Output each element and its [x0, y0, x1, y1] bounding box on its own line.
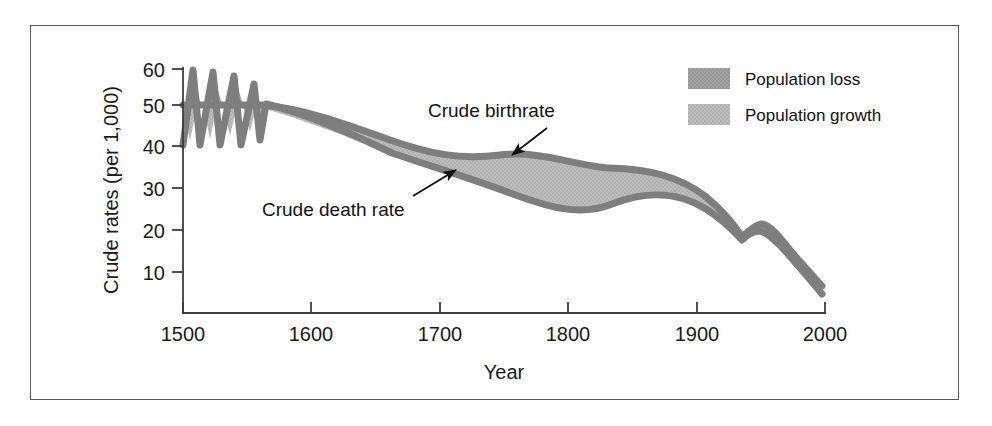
- x-tick-label-1900: 1900: [675, 323, 720, 345]
- crude-birthrate-curve: [183, 105, 822, 286]
- annotation-birthrate-arrow: [512, 128, 547, 155]
- x-tick-label-1500: 1500: [161, 323, 206, 345]
- y-tick-label-50: 50: [143, 95, 165, 117]
- x-tick-label-1600: 1600: [289, 323, 334, 345]
- annotation-crude-birthrate: Crude birthrate: [428, 100, 555, 121]
- y-tick-label-60: 60: [143, 59, 165, 81]
- legend-label-population-growth: Population growth: [745, 106, 881, 125]
- y-tick-label-10: 10: [143, 262, 165, 284]
- y-tick-label-30: 30: [143, 178, 165, 200]
- legend: Population loss Population growth: [688, 68, 881, 125]
- annotation-deathrate-arrow: [413, 170, 456, 196]
- legend-label-population-loss: Population loss: [745, 70, 860, 89]
- figure-container: 60 50 40 30 20 10 1500 1600 1700 1800 19…: [0, 0, 992, 426]
- y-tick-label-20: 20: [143, 220, 165, 242]
- y-tick-label-40: 40: [143, 136, 165, 158]
- annotation-crude-death-rate: Crude death rate: [262, 199, 405, 220]
- legend-swatch-population-growth: [688, 104, 730, 125]
- x-tick-label-1800: 1800: [546, 323, 591, 345]
- x-tick-label-2000: 2000: [803, 323, 848, 345]
- chart-plot: 60 50 40 30 20 10 1500 1600 1700 1800 19…: [0, 0, 992, 426]
- y-axis-ticks: [172, 69, 183, 272]
- legend-swatch-population-loss: [688, 68, 730, 89]
- x-tick-label-1700: 1700: [418, 323, 463, 345]
- x-axis-ticks: [183, 302, 825, 313]
- x-axis-title: Year: [484, 361, 525, 383]
- y-axis-title: Crude rates (per 1,000): [100, 86, 122, 294]
